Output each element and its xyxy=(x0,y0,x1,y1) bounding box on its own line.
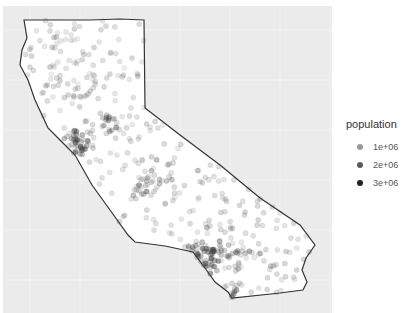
legend-dot-icon xyxy=(357,180,363,186)
legend-dot-icon xyxy=(357,162,363,168)
legend-label: 2e+06 xyxy=(373,160,398,170)
legend: population 1e+062e+063e+06 xyxy=(338,118,406,192)
legend-dot-icon xyxy=(357,144,363,150)
legend-item: 2e+06 xyxy=(338,156,406,174)
legend-title: population xyxy=(346,118,406,130)
legend-label: 3e+06 xyxy=(373,178,398,188)
legend-item: 3e+06 xyxy=(338,174,406,192)
california-map-plot xyxy=(0,0,338,313)
legend-item: 1e+06 xyxy=(338,138,406,156)
legend-label: 1e+06 xyxy=(373,142,398,152)
